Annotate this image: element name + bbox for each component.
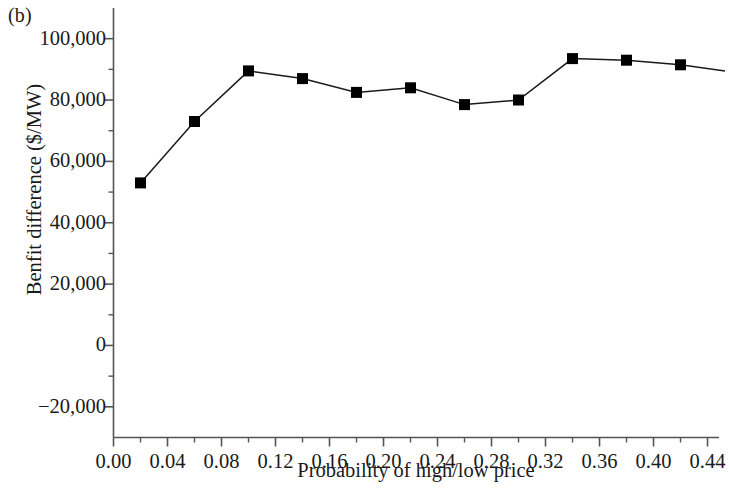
x-tick-label: 0.44 — [668, 451, 730, 472]
